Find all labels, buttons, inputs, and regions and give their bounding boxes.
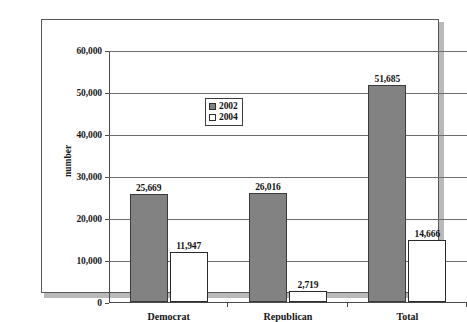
y-axis-tick-label: 10,000 — [76, 256, 102, 266]
bar-total-2002[interactable]: 51,685 — [368, 85, 406, 302]
y-axis-tick-label: 40,000 — [76, 130, 102, 140]
y-axis-tick-label: 60,000 — [76, 46, 102, 56]
x-axis-category-label: Democrat — [148, 311, 190, 322]
bar-group-total: 51,68514,666Total — [348, 51, 467, 303]
bar-value-label: 14,666 — [415, 229, 441, 239]
plot-area: 010,00020,00030,00040,00050,00060,000 25… — [109, 51, 467, 303]
bar-republican-2004[interactable]: 2,719 — [289, 291, 327, 302]
legend-item-label: 2002 — [219, 102, 238, 112]
y-axis-tick-label: 20,000 — [76, 214, 102, 224]
y-axis-tick-label: 30,000 — [76, 172, 102, 182]
bar-group-democrat: 25,66911,947Democrat — [109, 51, 228, 303]
bar-value-label: 25,669 — [136, 183, 162, 193]
legend-item-label: 2004 — [219, 113, 238, 123]
y-tick-mark — [105, 303, 109, 304]
y-axis-tick-label: 50,000 — [76, 88, 102, 98]
bar-democrat-2004[interactable]: 11,947 — [170, 252, 208, 302]
y-axis-tick-label: 0 — [97, 298, 102, 308]
bar-democrat-2002[interactable]: 25,669 — [130, 194, 168, 302]
bar-republican-2002[interactable]: 26,016 — [249, 193, 287, 302]
bar-group-republican: 26,0162,719Republican — [228, 51, 347, 303]
chart-legend: 20022004 — [205, 98, 243, 126]
x-axis-category-label: Republican — [264, 311, 313, 322]
x-axis-category-label: Total — [396, 311, 418, 322]
bar-total-2004[interactable]: 14,666 — [408, 240, 446, 302]
legend-item-2004[interactable]: 2004 — [209, 112, 238, 123]
x-tick-mark — [347, 303, 348, 307]
legend-item-2002[interactable]: 2002 — [209, 101, 238, 112]
x-tick-mark — [227, 303, 228, 307]
bar-value-label: 11,947 — [176, 241, 201, 251]
empty-white-square-icon — [209, 114, 216, 121]
y-axis-title: number — [63, 145, 73, 177]
filled-gray-square-icon — [209, 103, 216, 110]
chart-figure-frame: number 010,00020,00030,00040,00050,00060… — [41, 19, 439, 293]
bar-value-label: 2,719 — [298, 280, 319, 290]
bar-value-label: 26,016 — [255, 182, 281, 192]
bar-value-label: 51,685 — [375, 74, 401, 84]
